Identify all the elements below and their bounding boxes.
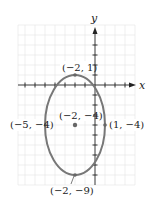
point-label-right: (1, −4) <box>109 119 144 130</box>
x-axis-label: x <box>139 79 146 92</box>
y-axis-label: y <box>90 12 98 25</box>
x-axis <box>18 83 136 88</box>
point-label-center: (−2, −4) <box>59 110 103 121</box>
point-label-bottom: (−2, −9) <box>50 185 94 196</box>
grid <box>18 25 135 185</box>
point-label-top: (−2, 1) <box>62 62 97 73</box>
point-label-left: (−5, −4) <box>10 119 54 130</box>
ellipse-graph: x y (−2, 1) (−5, −4) (−2, −4) (1, −4) (−… <box>0 0 151 211</box>
bottom-leader-line <box>71 176 74 184</box>
